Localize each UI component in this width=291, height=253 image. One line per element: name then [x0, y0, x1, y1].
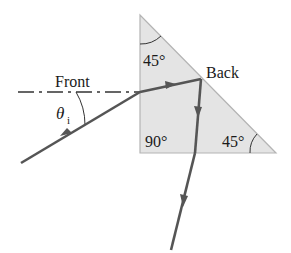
label-right-angle: 90°	[145, 133, 167, 150]
label-back: Back	[206, 64, 239, 81]
theta-arc	[76, 92, 85, 125]
diagram-canvas: Front Back θ i 45° 90° 45°	[0, 0, 291, 253]
label-front: Front	[55, 73, 90, 90]
theta-symbol: θ	[56, 104, 64, 123]
label-top-angle: 45°	[143, 52, 165, 69]
prism-diagram: Front Back θ i 45° 90° 45°	[0, 0, 291, 253]
label-theta: θ	[56, 104, 64, 123]
incident-ray	[21, 92, 140, 163]
label-theta-subscript: i	[67, 114, 70, 126]
label-bottom-right-angle: 45°	[222, 133, 244, 150]
